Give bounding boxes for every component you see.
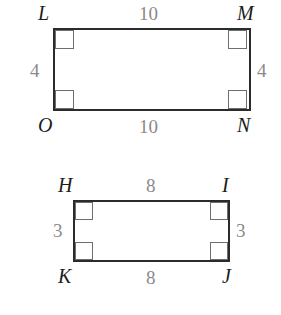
- right-angle-mark-j-icon: [210, 242, 228, 260]
- side-length-mn: 4: [257, 61, 267, 80]
- vertex-label-i: I: [222, 175, 229, 195]
- rectangle-hijk: [73, 200, 230, 262]
- right-angle-mark-l-icon: [55, 30, 74, 49]
- vertex-label-j: J: [222, 266, 231, 286]
- vertex-label-h: H: [58, 175, 72, 195]
- right-angle-mark-k-icon: [75, 242, 93, 260]
- side-length-hi: 8: [146, 176, 156, 195]
- side-length-ij: 3: [236, 221, 246, 240]
- side-length-hk: 3: [53, 221, 63, 240]
- vertex-label-o: O: [38, 115, 52, 135]
- side-length-lo: 4: [30, 61, 40, 80]
- vertex-label-m: M: [237, 3, 254, 23]
- side-length-on: 10: [139, 117, 158, 136]
- geometry-figure: L M O N 10 10 4 4 H I K J 8 8 3 3: [0, 0, 281, 315]
- right-angle-mark-i-icon: [210, 202, 228, 220]
- right-angle-mark-h-icon: [75, 202, 93, 220]
- vertex-label-n: N: [237, 115, 250, 135]
- vertex-label-k: K: [58, 266, 71, 286]
- right-angle-mark-m-icon: [228, 30, 247, 49]
- right-angle-mark-o-icon: [55, 90, 74, 109]
- side-length-kj: 8: [146, 268, 156, 287]
- rectangle-lmno: [53, 28, 251, 111]
- right-angle-mark-n-icon: [228, 90, 247, 109]
- vertex-label-l: L: [38, 3, 49, 23]
- side-length-lm: 10: [139, 4, 158, 23]
